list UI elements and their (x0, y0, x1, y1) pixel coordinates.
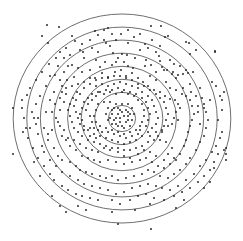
data-point (185, 179, 187, 181)
data-point (12, 107, 14, 109)
data-point (149, 89, 151, 91)
data-point (145, 157, 147, 159)
data-point (155, 123, 157, 125)
data-point (185, 95, 187, 97)
data-point (35, 103, 37, 105)
data-point (219, 95, 221, 97)
data-point (169, 189, 171, 191)
data-point (105, 42, 107, 44)
data-point (217, 119, 219, 121)
data-point (185, 139, 187, 141)
data-point (31, 111, 33, 113)
data-point (151, 39, 153, 41)
data-point (89, 135, 91, 137)
data-point (63, 101, 65, 103)
data-point (83, 87, 85, 89)
data-point (195, 149, 197, 151)
data-point (163, 125, 165, 127)
data-point (135, 139, 137, 141)
data-point (129, 91, 131, 93)
data-point (71, 35, 73, 37)
data-point (192, 71, 194, 73)
data-point (65, 87, 67, 89)
data-point (117, 147, 119, 149)
data-point (215, 145, 217, 147)
data-point (142, 81, 144, 83)
data-point (165, 81, 167, 83)
data-point (127, 119, 129, 121)
data-point (69, 103, 71, 105)
data-point (195, 49, 197, 51)
data-point (134, 209, 136, 211)
data-point (143, 85, 145, 87)
data-point (159, 91, 161, 93)
data-point (139, 49, 141, 51)
data-point (89, 127, 91, 129)
data-point (85, 209, 87, 211)
data-point (65, 139, 67, 141)
data-point (45, 111, 47, 113)
data-point (67, 109, 69, 111)
data-point (99, 161, 101, 163)
data-point (73, 139, 75, 141)
data-point (117, 131, 119, 133)
data-point (79, 93, 81, 95)
data-point (167, 113, 169, 115)
data-point (115, 39, 117, 41)
data-point (37, 133, 39, 135)
data-point (173, 63, 175, 65)
data-point (151, 161, 153, 163)
data-point (77, 131, 79, 133)
data-point (83, 183, 85, 185)
data-point (83, 57, 85, 59)
data-point (91, 93, 93, 95)
data-point (183, 145, 185, 147)
data-point (119, 135, 121, 137)
data-point (185, 163, 187, 165)
data-point (39, 95, 41, 97)
data-point (83, 101, 85, 103)
data-point (117, 87, 119, 89)
data-point (213, 161, 215, 163)
data-point (115, 123, 117, 125)
data-point (158, 55, 160, 57)
data-point (73, 105, 75, 107)
data-point (89, 197, 91, 199)
data-point (199, 123, 201, 125)
data-point (129, 131, 131, 133)
data-point (75, 165, 77, 167)
data-point (189, 99, 191, 101)
data-point (66, 79, 68, 81)
data-point (139, 185, 141, 187)
data-point (111, 109, 113, 111)
data-point (123, 143, 125, 145)
data-point (123, 127, 125, 129)
data-point (167, 177, 169, 179)
data-point (119, 121, 121, 123)
data-point (59, 79, 61, 81)
data-point (167, 35, 169, 37)
data-point (179, 107, 181, 109)
data-point (105, 113, 107, 115)
data-point (155, 51, 157, 53)
data-point (145, 59, 147, 61)
data-point (189, 53, 191, 55)
data-point (195, 95, 197, 97)
data-point (43, 151, 45, 153)
data-point (197, 105, 199, 107)
data-point (41, 145, 43, 147)
data-point (157, 117, 159, 119)
data-point (126, 54, 128, 56)
data-point (174, 99, 176, 101)
data-point (53, 179, 55, 181)
data-point (111, 89, 113, 91)
data-point (213, 167, 215, 169)
data-point (155, 185, 157, 187)
data-point (76, 91, 78, 93)
data-point (175, 159, 177, 161)
data-point (67, 65, 69, 67)
data-point (163, 167, 165, 169)
data-point (111, 64, 113, 66)
data-point (101, 131, 103, 133)
data-point (161, 66, 163, 68)
